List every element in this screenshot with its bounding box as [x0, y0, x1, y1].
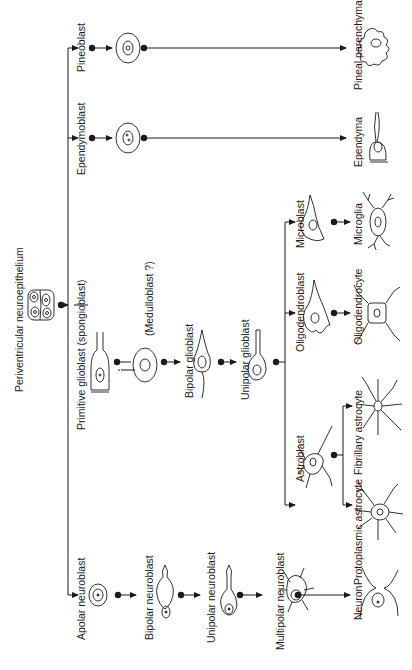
pineoblast-cell — [116, 33, 140, 63]
microglia-cell — [363, 192, 394, 250]
bipolar-glioblast-cell — [194, 330, 211, 398]
bipolar-neuroblast-cell — [157, 565, 174, 618]
apolar-neuroblast-cell — [89, 584, 107, 606]
ependyma-cell — [370, 112, 388, 162]
neuron-cell — [360, 568, 398, 618]
label-root: Periventricular neuroepithelium — [14, 247, 25, 392]
label-neuron: Neuron — [353, 586, 364, 620]
label-protoplasmic-astrocyte: Protoplasmic astrocyte — [353, 479, 364, 585]
label-apolar-neuroblast: Apolar neuroblast — [76, 558, 87, 640]
medulloblast-cell — [133, 348, 157, 382]
label-pineoblast: Pineoblast — [76, 23, 87, 72]
label-pineal-parenchyma: Pineal parenchyma — [353, 0, 364, 90]
primitive-glioblast-cell — [91, 332, 109, 392]
label-microblast: Microblast — [295, 200, 306, 248]
label-multipolar-neuroblast: Multipolar neuroblast — [275, 553, 286, 650]
label-ependyma: Ependyma — [353, 117, 364, 167]
label-oligodendroblast: Oligodendroblast — [295, 273, 306, 352]
label-primitive-glioblast: Primitive glioblast (spongioblast) — [76, 279, 87, 430]
label-unipolar-neuroblast: Unipolar neuroblast — [206, 552, 217, 643]
label-unipolar-glioblast: Unipolar glioblast — [240, 319, 251, 400]
unipolar-neuroblast-cell — [221, 565, 237, 615]
label-ependymoblast: Ependymoblast — [76, 103, 87, 175]
label-medulloblast: (Medulloblast ?) — [144, 261, 155, 336]
label-microglia: Microglia — [353, 203, 364, 245]
label-bipolar-glioblast: Bipolar glioblast — [184, 324, 195, 398]
label-astroblast: Astroblast — [295, 435, 306, 482]
ependymoblast-cell — [116, 123, 140, 153]
neuroepithelium-cells — [28, 290, 54, 320]
label-bipolar-neuroblast: Bipolar neuroblast — [144, 555, 155, 640]
oligodendroblast-cell — [303, 280, 330, 333]
label-fibrillary-astrocyte: Fibrillary astrocyte — [353, 390, 364, 475]
label-oligodendrocyte: Oligodendrocyte — [353, 269, 364, 345]
